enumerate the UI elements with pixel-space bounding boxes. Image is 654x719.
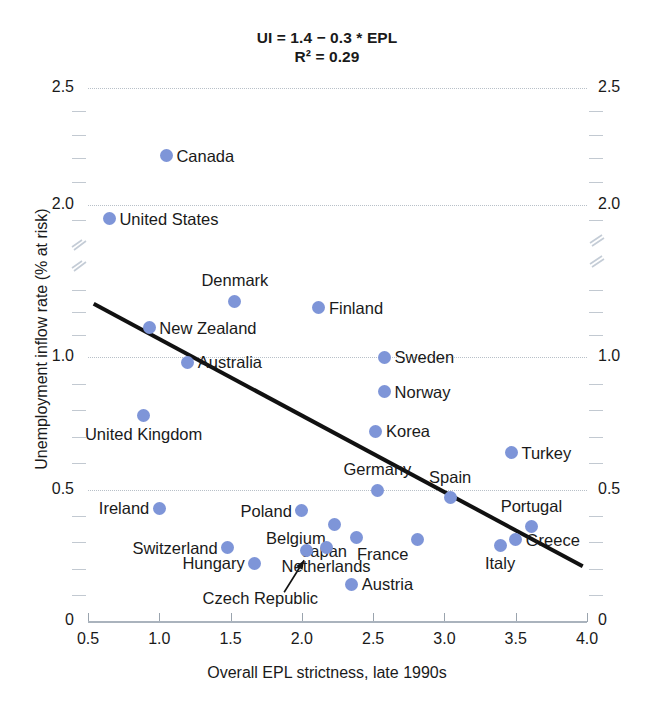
y-tick-label: 2.0 <box>28 195 74 213</box>
data-point-united-kingdom[interactable] <box>137 409 150 422</box>
minor-tick <box>589 595 603 596</box>
point-label-australia: Australia <box>198 353 262 372</box>
data-point-turkey[interactable] <box>505 446 518 459</box>
minor-tick <box>589 384 603 385</box>
point-label-united-kingdom: United Kingdom <box>85 425 202 444</box>
y-tick-label: 2.0 <box>598 195 644 213</box>
minor-tick <box>589 569 603 570</box>
minor-tick <box>589 335 603 336</box>
point-label-denmark: Denmark <box>201 271 268 290</box>
minor-tick <box>72 437 86 438</box>
chart-title: UI = 1.4 − 0.3 * EPL <box>0 28 654 47</box>
data-point-ireland[interactable] <box>153 502 166 515</box>
minor-tick <box>72 463 86 464</box>
point-label-czech-republic: Czech Republic <box>203 589 319 608</box>
data-point-canada[interactable] <box>160 149 173 162</box>
x-tick-label: 1.5 <box>201 630 261 648</box>
data-point-belgium[interactable] <box>328 518 341 531</box>
minor-tick <box>589 135 603 136</box>
minor-tick <box>589 410 603 411</box>
minor-tick <box>72 410 86 411</box>
y-tick-label: 0 <box>598 611 644 629</box>
y-tick-label: 0.5 <box>598 480 644 498</box>
minor-tick <box>589 220 603 221</box>
data-point-czech-republic[interactable] <box>300 544 313 557</box>
point-label-turkey: Turkey <box>521 443 571 462</box>
minor-tick <box>589 111 603 112</box>
minor-tick <box>72 569 86 570</box>
x-tick-label: 0.5 <box>58 630 118 648</box>
x-tick-label: 3.0 <box>414 630 474 648</box>
x-tick-label: 2.5 <box>343 630 403 648</box>
data-point-denmark[interactable] <box>228 295 241 308</box>
axis-break-marks <box>0 0 654 719</box>
minor-tick <box>72 158 86 159</box>
minor-tick <box>72 595 86 596</box>
minor-tick <box>72 384 86 385</box>
x-tick-label: 2.0 <box>272 630 332 648</box>
minor-tick <box>589 463 603 464</box>
point-label-netherlands: Netherlands <box>282 557 371 576</box>
x-tick-label: 3.5 <box>486 630 546 648</box>
point-label-greece: Greece <box>526 530 580 549</box>
point-label-sweden: Sweden <box>395 348 455 367</box>
point-label-korea: Korea <box>386 422 430 441</box>
chart-title-block: UI = 1.4 − 0.3 * EPL R² = 0.29 <box>0 28 654 66</box>
data-point-italy[interactable] <box>494 539 507 552</box>
y-tick-label: 0 <box>28 611 74 629</box>
x-axis-label: Overall EPL strictness, late 1990s <box>0 664 654 682</box>
x-tick-label: 4.0 <box>557 630 617 648</box>
data-point-finland[interactable] <box>312 301 325 314</box>
minor-tick <box>589 182 603 183</box>
minor-tick <box>72 182 86 183</box>
point-label-austria: Austria <box>362 575 413 594</box>
data-point-greece[interactable] <box>509 533 522 546</box>
data-point-germany[interactable] <box>371 484 384 497</box>
data-point-new-zealand[interactable] <box>143 321 156 334</box>
data-point-switzerland[interactable] <box>221 541 234 554</box>
minor-tick <box>589 437 603 438</box>
minor-tick <box>589 542 603 543</box>
x-tick-label: 1.0 <box>129 630 189 648</box>
minor-tick <box>72 542 86 543</box>
x-tick <box>587 613 588 622</box>
chart-subtitle: R² = 0.29 <box>0 47 654 66</box>
y-tick-label: 2.5 <box>28 78 74 96</box>
data-point-japan[interactable] <box>350 531 363 544</box>
data-point-france[interactable] <box>411 533 424 546</box>
minor-tick <box>72 220 86 221</box>
point-label-poland: Poland <box>240 501 291 520</box>
minor-tick <box>589 516 603 517</box>
point-label-germany: Germany <box>343 460 411 479</box>
data-point-sweden[interactable] <box>378 351 391 364</box>
minor-tick <box>72 516 86 517</box>
data-point-norway[interactable] <box>378 385 391 398</box>
minor-tick <box>72 111 86 112</box>
minor-tick <box>72 335 86 336</box>
point-label-ireland: Ireland <box>99 499 149 518</box>
point-label-finland: Finland <box>329 298 383 317</box>
data-point-hungary[interactable] <box>248 557 261 570</box>
point-label-new-zealand: New Zealand <box>159 318 256 337</box>
minor-tick <box>72 312 86 313</box>
data-point-poland[interactable] <box>295 504 308 517</box>
x-axis-line <box>88 621 587 623</box>
scatter-chart-figure: UI = 1.4 − 0.3 * EPL R² = 0.29 Unemploym… <box>0 0 654 719</box>
y-tick-label: 1.0 <box>598 347 644 365</box>
point-label-spain: Spain <box>429 468 471 487</box>
minor-tick <box>72 290 86 291</box>
y-tick-label: 2.5 <box>598 78 644 96</box>
point-label-portugal: Portugal <box>501 497 562 516</box>
data-point-spain[interactable] <box>444 491 457 504</box>
data-point-korea[interactable] <box>369 425 382 438</box>
y-tick-label: 0.5 <box>28 480 74 498</box>
minor-tick <box>72 135 86 136</box>
data-point-united-states[interactable] <box>103 212 116 225</box>
y-tick-label: 1.0 <box>28 347 74 365</box>
data-point-austria[interactable] <box>345 578 358 591</box>
data-point-australia[interactable] <box>181 356 194 369</box>
point-label-united-states: United States <box>119 209 218 228</box>
data-point-netherlands[interactable] <box>320 541 333 554</box>
point-label-hungary: Hungary <box>182 554 244 573</box>
gridline <box>88 88 587 90</box>
